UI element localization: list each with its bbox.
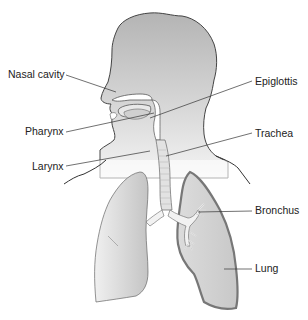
label-nasal-cavity: Nasal cavity bbox=[8, 68, 65, 80]
label-pharynx: Pharynx bbox=[25, 125, 64, 137]
label-larynx: Larynx bbox=[32, 160, 64, 172]
label-bronchus: Bronchus bbox=[255, 204, 299, 216]
label-lung: Lung bbox=[255, 262, 278, 274]
label-trachea: Trachea bbox=[255, 127, 293, 139]
left-lung bbox=[95, 172, 148, 302]
label-epiglottis: Epiglottis bbox=[255, 75, 298, 87]
